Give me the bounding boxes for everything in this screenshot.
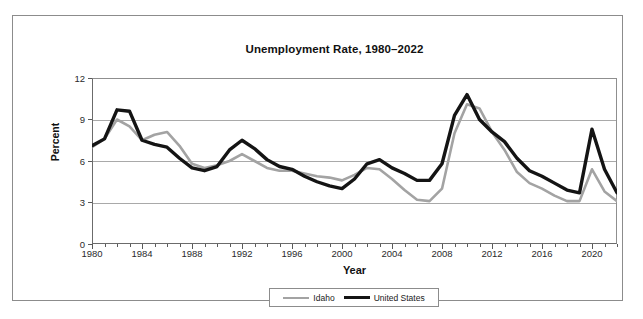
x-tick-label-2020: 2020 xyxy=(572,248,612,259)
y-tick-label-12: 12 xyxy=(59,73,85,84)
x-tick-mark-2002 xyxy=(367,244,368,247)
legend-label-united-states: United States xyxy=(374,293,425,303)
x-tick-label-1984: 1984 xyxy=(122,248,162,259)
x-tick-mark-2010 xyxy=(467,244,468,247)
x-tick-mark-1998 xyxy=(317,244,318,247)
x-tick-label-2000: 2000 xyxy=(322,248,362,259)
x-tick-mark-2021 xyxy=(605,244,606,247)
x-tick-mark-1985 xyxy=(155,244,156,247)
chart-series-layer xyxy=(92,78,617,244)
x-tick-mark-2015 xyxy=(530,244,531,247)
x-tick-mark-2019 xyxy=(580,244,581,247)
x-tick-mark-1986 xyxy=(167,244,168,247)
x-tick-mark-1995 xyxy=(280,244,281,247)
x-tick-mark-1981 xyxy=(105,244,106,247)
legend-label-idaho: Idaho xyxy=(313,293,334,303)
x-tick-mark-2017 xyxy=(555,244,556,247)
y-tick-label-6: 6 xyxy=(59,156,85,167)
legend-entry-idaho: Idaho xyxy=(283,293,334,303)
x-tick-label-1980: 1980 xyxy=(72,248,112,259)
y-tick-label-3: 3 xyxy=(59,197,85,208)
x-tick-label-2004: 2004 xyxy=(372,248,412,259)
x-tick-mark-2022 xyxy=(617,244,618,247)
x-tick-mark-2005 xyxy=(405,244,406,247)
x-tick-mark-2003 xyxy=(380,244,381,247)
chart-page: Unemployment Rate, 1980–2022 Percent 12 … xyxy=(0,0,643,319)
x-tick-mark-2006 xyxy=(417,244,418,247)
figure-frame: Unemployment Rate, 1980–2022 Percent 12 … xyxy=(12,15,623,301)
x-tick-label-2012: 2012 xyxy=(472,248,512,259)
x-tick-label-1988: 1988 xyxy=(172,248,212,259)
x-tick-mark-1991 xyxy=(230,244,231,247)
x-tick-mark-1982 xyxy=(117,244,118,247)
page-title: Unemployment Rate, 1980–2022 xyxy=(13,43,643,55)
x-tick-mark-1983 xyxy=(130,244,131,247)
x-tick-mark-2001 xyxy=(355,244,356,247)
x-tick-mark-1987 xyxy=(180,244,181,247)
x-tick-mark-2014 xyxy=(517,244,518,247)
gray-line-swatch-icon xyxy=(283,297,309,299)
x-tick-mark-1997 xyxy=(305,244,306,247)
x-tick-mark-1990 xyxy=(217,244,218,247)
x-tick-label-1996: 1996 xyxy=(272,248,312,259)
x-tick-label-1992: 1992 xyxy=(222,248,262,259)
x-tick-mark-2011 xyxy=(480,244,481,247)
series-line-united-states xyxy=(92,95,617,193)
legend-entry-united-states: United States xyxy=(344,293,425,303)
x-axis-title: Year xyxy=(92,264,617,276)
x-tick-mark-1993 xyxy=(255,244,256,247)
y-tick-label-9: 9 xyxy=(59,114,85,125)
x-tick-mark-2009 xyxy=(455,244,456,247)
x-tick-mark-1989 xyxy=(205,244,206,247)
x-tick-mark-2013 xyxy=(505,244,506,247)
black-line-swatch-icon xyxy=(344,296,370,299)
page-footer-artifact xyxy=(215,309,615,317)
x-tick-mark-2007 xyxy=(430,244,431,247)
x-tick-label-2016: 2016 xyxy=(522,248,562,259)
x-tick-mark-2018 xyxy=(567,244,568,247)
x-tick-mark-1999 xyxy=(330,244,331,247)
chart-legend: Idaho United States xyxy=(269,288,439,307)
x-tick-mark-1994 xyxy=(267,244,268,247)
x-tick-label-2008: 2008 xyxy=(422,248,462,259)
y-axis-title: Percent xyxy=(49,97,61,187)
